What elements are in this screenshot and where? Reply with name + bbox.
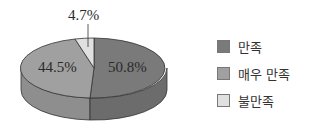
legend-label: 불만족 xyxy=(238,91,274,110)
label-unsatisfied: 4.7% xyxy=(68,7,99,23)
label-very-satisfied: 44.5% xyxy=(38,59,77,75)
swatch-satisfied xyxy=(217,40,230,53)
legend-item-unsatisfied: 불만족 xyxy=(217,87,290,114)
legend-label: 매우 만족 xyxy=(238,64,290,83)
label-satisfied: 50.8% xyxy=(108,59,147,75)
swatch-unsatisfied xyxy=(217,94,230,107)
legend-item-satisfied: 만족 xyxy=(217,33,290,60)
legend-label: 만족 xyxy=(238,37,262,56)
swatch-very-satisfied xyxy=(217,67,230,80)
legend: 만족 매우 만족 불만족 xyxy=(217,33,290,114)
legend-item-very-satisfied: 매우 만족 xyxy=(217,60,290,87)
pie-chart: 4.7% 44.5% 50.8% xyxy=(0,0,200,129)
